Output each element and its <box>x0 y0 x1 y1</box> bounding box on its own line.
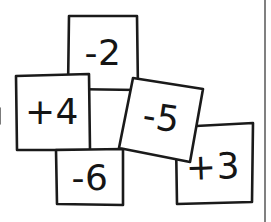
card-plus-4[interactable]: +4 <box>16 74 90 150</box>
card-minus-5-label: -5 <box>140 94 183 140</box>
card-plus-3-label: +3 <box>185 145 240 188</box>
card-scene: -2 +4 -6 +3 -5 <box>0 0 271 222</box>
card-minus-6[interactable]: -6 <box>56 149 123 205</box>
card-minus-2-label: -2 <box>85 32 122 73</box>
cards-canvas: -2 +4 -6 +3 -5 <box>0 0 271 222</box>
card-plus-4-label: +4 <box>25 91 79 132</box>
card-minus-6-label: -6 <box>72 157 109 198</box>
card-minus-5[interactable]: -5 <box>119 78 203 162</box>
